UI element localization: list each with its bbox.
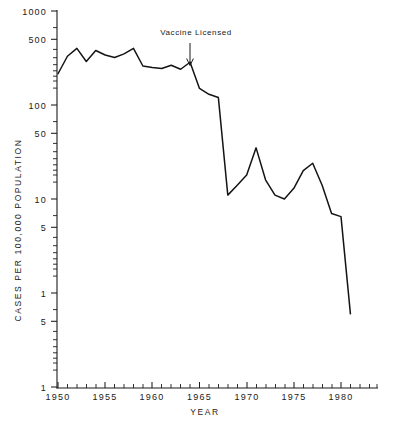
y-axis-major-ticks <box>51 11 57 387</box>
chart-canvas: 1000 500 100 50 10 5 1 5 1 CASES PER 100… <box>0 0 400 425</box>
y-tick-label: 5 <box>41 223 47 233</box>
y-tick-label: 10 <box>35 195 47 205</box>
measles-incidence-chart: 1000 500 100 50 10 5 1 5 1 CASES PER 100… <box>0 0 400 425</box>
y-tick-label: 1000 <box>22 7 47 17</box>
x-tick-label: 1965 <box>187 392 212 402</box>
x-tick-label: 1970 <box>235 392 260 402</box>
y-tick-label: 5 <box>41 317 47 327</box>
measles-incidence-line <box>58 48 350 313</box>
x-tick-label: 1955 <box>93 392 118 402</box>
y-tick-label: 50 <box>35 129 47 139</box>
x-axis-minor-ticks <box>68 384 378 388</box>
y-tick-label: 500 <box>28 35 47 45</box>
y-axis-tick-labels: 1000 500 100 50 10 5 1 5 1 <box>22 7 47 393</box>
x-axis-title: YEAR <box>190 407 220 417</box>
x-axis-major-ticks <box>58 382 341 388</box>
x-tick-label: 1975 <box>282 392 307 402</box>
y-axis-title: CASES PER 100,000 POPULATION <box>13 138 23 321</box>
x-axis-tick-labels: 1950 1955 1960 1965 1970 1975 1980 <box>46 392 354 402</box>
y-tick-label: 1 <box>41 383 47 393</box>
x-tick-label: 1960 <box>140 392 165 402</box>
vaccine-licensed-annotation: Vaccine Licensed <box>160 28 232 66</box>
y-tick-label: 1 <box>41 289 47 299</box>
x-tick-label: 1950 <box>46 392 71 402</box>
annotation-label: Vaccine Licensed <box>160 28 232 37</box>
y-tick-label: 100 <box>28 101 47 111</box>
x-tick-label: 1980 <box>329 392 354 402</box>
